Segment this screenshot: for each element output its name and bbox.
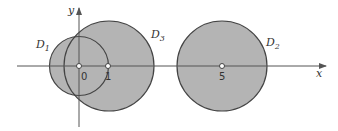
disk-label-d3: D3: [150, 28, 165, 43]
x-axis-label: x: [316, 67, 323, 80]
tick-label-1: 1: [105, 71, 111, 82]
point-five: [220, 64, 225, 69]
tick-label-0: 0: [81, 71, 87, 82]
point-one: [106, 64, 111, 69]
disk-label-d1: D1: [35, 38, 50, 53]
tick-label-5: 5: [219, 71, 225, 82]
disk-label-d2: D2: [265, 36, 280, 51]
point-origin: [77, 64, 82, 69]
disks-diagram: 0 1 5 x y D1 D3 D2: [0, 0, 338, 131]
y-axis-label: y: [67, 4, 75, 17]
